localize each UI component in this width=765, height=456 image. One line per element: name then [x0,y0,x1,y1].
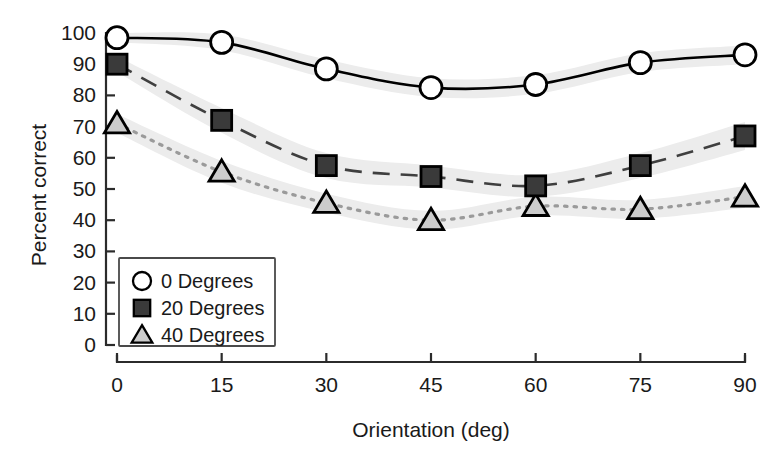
y-tick-label: 50 [73,177,96,200]
y-tick-label: 40 [73,208,96,231]
legend-marker-0 [133,272,151,290]
marker-square [316,156,336,176]
y-tick-label: 20 [73,271,96,294]
marker-circle [734,44,756,66]
y-tick-label: 30 [73,239,96,262]
x-tick-label: 75 [629,373,652,396]
x-axis-ticks [117,353,745,362]
marker-square [630,156,650,176]
legend: 0 Degrees20 Degrees40 Degrees [119,258,275,346]
marker-circle [106,27,128,49]
y-tick-label: 60 [73,146,96,169]
marker-square [421,167,441,187]
x-tick-label: 60 [524,373,547,396]
x-tick-label: 45 [419,373,442,396]
marker-circle [525,73,547,95]
x-tick-label: 90 [733,373,756,396]
legend-marker-1 [134,300,150,316]
y-tick-label: 70 [73,115,96,138]
x-axis-tick-labels: 0153045607590 [111,373,757,396]
x-tick-label: 15 [210,373,233,396]
plot-area: 0102030405060708090100 Percent correct 0… [0,0,765,456]
marker-circle [211,31,233,53]
marker-circle [420,77,442,99]
x-tick-label: 30 [315,373,338,396]
marker-square [735,126,755,146]
y-tick-label: 90 [73,52,96,75]
y-axis: 0102030405060708090100 Percent correct [27,21,115,356]
y-axis-ticks [106,33,115,345]
x-axis: 0153045607590 Orientation (deg) [111,353,757,441]
marker-circle [315,58,337,80]
x-tick-label: 0 [111,373,123,396]
marker-square [107,54,127,74]
y-axis-title: Percent correct [27,124,50,267]
legend-label-2: 40 Degrees [161,324,264,346]
y-tick-label: 10 [73,302,96,325]
marker-square [212,110,232,130]
marker-circle [629,52,651,74]
x-axis-title: Orientation (deg) [352,418,510,441]
chart-figure: 0102030405060708090100 Percent correct 0… [0,0,765,456]
y-tick-label: 80 [73,83,96,106]
legend-label-0: 0 Degrees [161,270,253,292]
marker-square [526,176,546,196]
y-tick-label: 0 [84,333,96,356]
legend-label-1: 20 Degrees [161,297,264,319]
y-tick-label: 100 [61,21,96,44]
y-axis-tick-labels: 0102030405060708090100 [61,21,96,356]
